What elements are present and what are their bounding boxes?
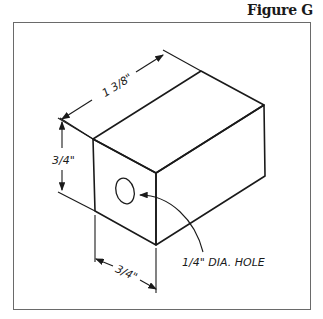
block [93,71,265,245]
length-label: 1 3/8" [100,71,135,100]
hole-icon [113,176,137,206]
length-dimension [60,50,201,139]
width-label: 3/4" [113,262,139,283]
block-front-face [93,139,156,245]
isometric-block-drawing: 1 3/8" 3/4" 3/4" 1/4" DIA. HOLE [0,0,323,319]
hole-leader-line [140,195,203,252]
width-dimension [95,215,156,293]
block-side-face [156,105,265,245]
hole-label: 1/4" DIA. HOLE [182,256,265,269]
height-label: 3/4" [52,154,75,167]
